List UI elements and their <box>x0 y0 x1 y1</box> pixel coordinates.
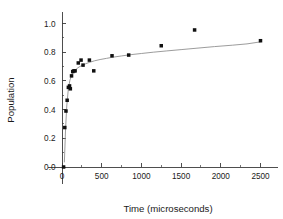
data-point-marker <box>88 58 92 62</box>
data-point-marker <box>65 99 69 103</box>
y-tick-label: 0.8 <box>44 48 56 57</box>
data-point-marker <box>259 39 263 43</box>
data-point-marker <box>79 58 83 62</box>
data-point-marker <box>160 44 164 48</box>
data-point-marker <box>62 165 65 169</box>
x-tick-label: 0 <box>60 172 65 181</box>
population-vs-time-scatter-plot: 050010001500200025000.00.20.40.60.81.0 T… <box>0 0 283 219</box>
data-point-marker <box>81 63 85 66</box>
data-point-marker <box>64 109 68 113</box>
x-tick-label: 1000 <box>132 172 151 181</box>
chart-figure: 050010001500200025000.00.20.40.60.81.0 T… <box>0 0 283 219</box>
y-tick-label: 0.4 <box>44 106 56 115</box>
data-point-marker <box>127 53 131 57</box>
y-tick-label: 1.0 <box>44 20 56 29</box>
x-tick-label: 2000 <box>212 172 231 181</box>
data-point-marker <box>110 54 114 58</box>
data-point-marker <box>70 74 74 78</box>
data-point-marker <box>69 87 73 91</box>
x-tick-label: 500 <box>95 172 109 181</box>
y-tick-label: 0.2 <box>44 134 56 143</box>
plot-background <box>0 0 283 219</box>
x-tick-label: 1500 <box>172 172 191 181</box>
x-tick-label: 2500 <box>251 172 270 181</box>
data-point-marker <box>63 126 67 130</box>
y-tick-label: 0.6 <box>44 77 56 86</box>
data-point-marker <box>193 28 197 32</box>
data-point-marker <box>92 69 96 73</box>
y-axis-title: Population <box>5 77 16 122</box>
x-axis-title: Time (microseconds) <box>123 203 212 214</box>
y-tick-label: 0.0 <box>44 163 56 172</box>
data-point-marker <box>73 69 77 73</box>
